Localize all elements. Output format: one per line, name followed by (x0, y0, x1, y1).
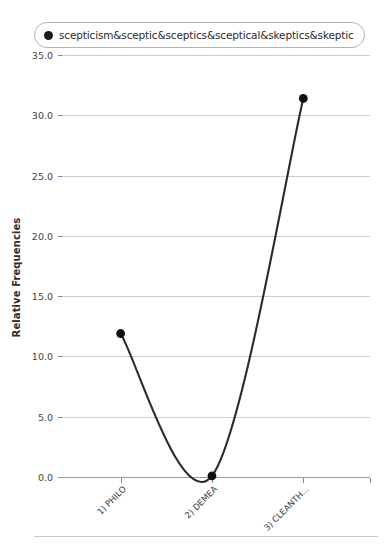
data-series (116, 94, 307, 482)
y-tick-label: 30.0 (32, 110, 53, 121)
gridlines (58, 56, 370, 478)
y-tick-label: 15.0 (32, 291, 53, 302)
y-tick-label: 20.0 (32, 231, 53, 242)
y-axis-tick-labels: 0.05.010.015.020.025.030.035.0 (32, 50, 53, 483)
y-tick-label: 35.0 (32, 50, 53, 61)
y-tick-label: 5.0 (38, 412, 53, 423)
line-chart: scepticism&sceptic&sceptics&sceptical&sk… (0, 0, 390, 554)
bottom-divider (34, 536, 378, 537)
y-tick-label: 10.0 (32, 351, 53, 362)
plot-area: 0.05.010.015.020.025.030.035.0 1) PHILO2… (0, 0, 390, 554)
y-tick-label: 0.0 (38, 472, 53, 483)
series-line (121, 98, 304, 482)
data-point[interactable] (299, 94, 308, 103)
x-tick-label: 1) PHILO (95, 484, 128, 517)
x-tick-label: 2) DEMEA (183, 484, 220, 521)
x-tick-label: 3) CLEANTH... (262, 484, 311, 533)
data-point[interactable] (208, 471, 217, 480)
data-point[interactable] (116, 329, 125, 338)
y-tick-label: 25.0 (32, 171, 53, 182)
x-axis-tick-labels: 1) PHILO2) DEMEA3) CLEANTH... (95, 484, 311, 533)
